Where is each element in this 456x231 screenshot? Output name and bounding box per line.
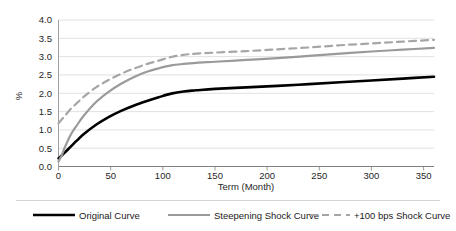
chart-background xyxy=(0,0,456,231)
y-axis-tick-labels: 0.00.51.01.52.02.53.03.54.0 xyxy=(39,14,52,172)
legend-label: Original Curve xyxy=(79,210,140,221)
x-tick-label: 200 xyxy=(259,170,275,181)
x-tick-label: 100 xyxy=(155,170,171,181)
line-chart: 0.00.51.01.52.02.53.03.54.0 050100150200… xyxy=(0,0,456,231)
chart-container: 0.00.51.01.52.02.53.03.54.0 050100150200… xyxy=(0,0,456,231)
x-tick-label: 150 xyxy=(207,170,223,181)
legend-label: Steepening Shock Curve xyxy=(214,210,319,221)
y-tick-label: 2.0 xyxy=(39,88,52,99)
y-tick-label: 2.5 xyxy=(39,69,52,80)
x-tick-label: 50 xyxy=(105,170,116,181)
x-tick-label: 300 xyxy=(363,170,379,181)
y-axis-title: % xyxy=(13,91,24,100)
y-tick-label: 3.5 xyxy=(39,33,52,44)
y-tick-label: 4.0 xyxy=(39,14,52,25)
y-tick-label: 0.5 xyxy=(39,143,52,154)
x-tick-label: 250 xyxy=(311,170,327,181)
y-tick-label: 3.0 xyxy=(39,51,52,62)
legend-label: +100 bps Shock Curve xyxy=(354,210,450,221)
x-tick-label: 0 xyxy=(56,170,61,181)
x-axis-title: Term (Month) xyxy=(218,181,274,192)
chart-legend: Original CurveSteepening Shock Curve+100… xyxy=(33,210,450,221)
y-tick-label: 1.5 xyxy=(39,106,52,117)
y-tick-label: 1.0 xyxy=(39,124,52,135)
y-tick-label: 0.0 xyxy=(39,161,52,172)
x-tick-label: 350 xyxy=(416,170,432,181)
